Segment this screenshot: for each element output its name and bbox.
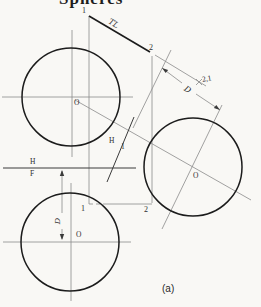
label-fold-hf-f: F [30,170,34,178]
label-point-2-front: 2 [144,206,148,214]
figure-title: Spheres [59,0,123,9]
label-fold-hf-h: H [30,158,35,166]
label-point-1-top: 1 [82,7,86,15]
label-point-1-front: 1 [81,205,85,213]
label-center-o-top: O [74,99,79,107]
label-fold-h1-1: 1 [121,143,125,151]
label-dim-d-front: D [54,218,62,224]
sightline-o-to-o [75,100,251,200]
front-d-arrow-down [60,234,64,240]
label-view-2-1: 2,1 [201,74,212,83]
figure-spheres-diagram: Spheres 1 TL 2 2,1 D O H F H 1 O 1 2 D O… [0,0,261,307]
front-d-arrow-up [60,170,64,176]
label-point-2-top: 2 [149,44,153,52]
aux-d-arrow-lower [214,105,220,110]
label-fold-h1-h: H [109,137,114,145]
label-center-o-aux: O [193,172,198,180]
figure-caption: (a) [162,283,174,294]
geometry-canvas [0,0,261,307]
label-center-o-front: O [76,231,81,239]
